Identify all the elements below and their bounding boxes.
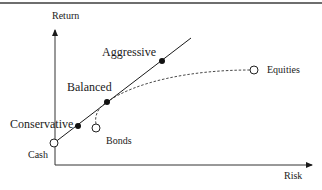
efficient-frontier-curve <box>96 70 250 124</box>
aggressive-point <box>159 58 165 64</box>
equities-point <box>250 66 258 74</box>
risk-return-diagram <box>0 0 322 190</box>
bonds-label: Bonds <box>106 136 132 146</box>
cash-point <box>50 139 58 147</box>
conservative-point <box>75 123 81 129</box>
equities-label: Equities <box>267 65 300 75</box>
bonds-point <box>92 124 100 132</box>
y-axis-label: Return <box>52 11 79 21</box>
x-axis-label: Risk <box>284 171 302 181</box>
conservative-label: Conservative <box>10 118 73 130</box>
cash-label: Cash <box>28 150 48 160</box>
balanced-point <box>104 99 110 105</box>
balanced-label: Balanced <box>67 81 112 93</box>
aggressive-label: Aggressive <box>102 46 156 58</box>
